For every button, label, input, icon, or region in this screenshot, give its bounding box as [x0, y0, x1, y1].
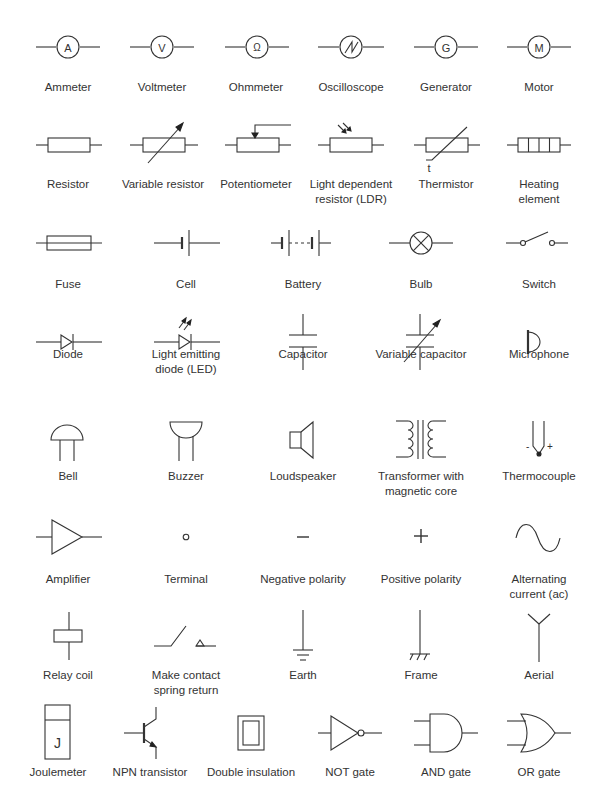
- thermistor-label: Thermistor: [419, 177, 474, 192]
- ammeter-symbol: A: [36, 33, 100, 61]
- amplifier-label: Amplifier: [46, 572, 91, 587]
- ammeter-icon: A: [36, 33, 100, 61]
- thermocouple-label: Thermocouple: [502, 469, 576, 484]
- ohmmeter-icon: Ω: [225, 33, 289, 61]
- svg-text:A: A: [64, 42, 72, 54]
- loudspeaker-symbol: [288, 419, 318, 461]
- voltmeter-icon: V: [130, 33, 194, 61]
- svg-text:-: -: [526, 441, 529, 452]
- earth-icon: [290, 610, 316, 662]
- cell-label: Cell: [176, 277, 196, 292]
- oscilloscope-icon: [318, 33, 384, 61]
- switch-label: Switch: [522, 277, 556, 292]
- double-insulation-symbol: [237, 715, 265, 751]
- frame-label: Frame: [404, 668, 437, 683]
- ohmmeter-label: Ohmmeter: [229, 80, 283, 95]
- bell-symbol: [48, 419, 88, 461]
- aerial-icon: [525, 612, 553, 664]
- npn-transistor-symbol: [124, 707, 164, 759]
- diode-label: Diode: [53, 347, 83, 362]
- fuse-icon: [36, 228, 102, 258]
- ldr-symbol: [318, 120, 388, 170]
- heating-element-symbol: [507, 120, 573, 170]
- bell-label: Bell: [58, 469, 77, 484]
- fuse-symbol: [36, 228, 102, 258]
- sine-wave-icon: [514, 518, 564, 558]
- frame-icon: [405, 610, 435, 662]
- svg-text:V: V: [158, 42, 166, 54]
- ac-symbol: [514, 518, 564, 558]
- and-gate-label: AND gate: [421, 765, 471, 780]
- cell-symbol: [154, 228, 220, 258]
- generator-symbol: G: [414, 33, 478, 61]
- voltmeter-label: Voltmeter: [138, 80, 187, 95]
- ohmmeter-symbol: Ω: [225, 33, 289, 61]
- thermistor-icon: t: [414, 120, 484, 175]
- transformer-symbol: [396, 419, 450, 461]
- make-contact-icon: [154, 622, 220, 650]
- switch-icon: [506, 228, 572, 258]
- resistor-icon: [36, 120, 102, 170]
- microphone-label: Microphone: [509, 347, 569, 362]
- thermocouple-icon: - +: [522, 419, 562, 461]
- transformer-label: Transformer with magnetic core: [378, 469, 464, 499]
- npn-transistor-icon: [124, 707, 164, 759]
- terminal-label: Terminal: [164, 572, 207, 587]
- not-gate-icon: [318, 714, 384, 752]
- motor-symbol: M: [507, 33, 571, 61]
- npn-transistor-label: NPN transistor: [113, 765, 188, 780]
- thermocouple-symbol: - +: [522, 419, 562, 461]
- relay-coil-icon: [52, 612, 86, 660]
- buzzer-icon: [166, 419, 206, 461]
- double-insulation-label: Double insulation: [207, 765, 295, 780]
- relay-coil-symbol: [52, 612, 86, 660]
- generator-label: Generator: [420, 80, 472, 95]
- variable-capacitor-label: Variable capacitor: [375, 347, 466, 362]
- joulemeter-symbol: J: [44, 704, 74, 760]
- loudspeaker-icon: [288, 419, 318, 461]
- resistor-label: Resistor: [47, 177, 89, 192]
- earth-label: Earth: [289, 668, 317, 683]
- relay-coil-label: Relay coil: [43, 668, 93, 683]
- make-contact-label: Make contact spring return: [152, 668, 220, 698]
- svg-text:+: +: [547, 441, 553, 452]
- variable-resistor-icon: [130, 120, 200, 170]
- aerial-label: Aerial: [524, 668, 553, 683]
- transformer-icon: [396, 419, 450, 461]
- positive-polarity-label: Positive polarity: [381, 572, 462, 587]
- fuse-label: Fuse: [55, 277, 81, 292]
- svg-text:J: J: [54, 735, 61, 751]
- negative-polarity-symbol: [295, 531, 311, 543]
- battery-label: Battery: [285, 277, 321, 292]
- make-contact-symbol: [154, 622, 220, 650]
- svg-text:Ω: Ω: [253, 42, 261, 53]
- or-gate-label: OR gate: [518, 765, 561, 780]
- ldr-icon: [318, 120, 388, 170]
- switch-symbol: [506, 228, 572, 258]
- buzzer-label: Buzzer: [168, 469, 204, 484]
- variable-resistor-label: Variable resistor: [122, 177, 204, 192]
- and-gate-symbol: [414, 712, 480, 754]
- heating-element-label: Heating element: [508, 177, 571, 207]
- double-insulation-icon: [237, 715, 265, 751]
- thermistor-symbol: t: [414, 120, 484, 175]
- motor-icon: M: [507, 33, 571, 61]
- buzzer-symbol: [166, 419, 206, 461]
- aerial-symbol: [525, 612, 553, 664]
- frame-symbol: [405, 610, 435, 662]
- resistor-symbol: [36, 120, 102, 170]
- svg-text:G: G: [442, 42, 451, 54]
- ammeter-label: Ammeter: [45, 80, 92, 95]
- negative-polarity-label: Negative polarity: [260, 572, 346, 587]
- svg-text:t: t: [427, 162, 430, 174]
- cell-icon: [154, 228, 220, 258]
- ldr-label: Light dependent resistor (LDR): [310, 177, 393, 207]
- heating-element-icon: [507, 120, 573, 170]
- positive-polarity-symbol: [412, 527, 430, 545]
- voltmeter-symbol: V: [130, 33, 194, 61]
- terminal-icon: [180, 531, 192, 543]
- generator-icon: G: [414, 33, 478, 61]
- led-label: Light emitting diode (LED): [152, 347, 220, 377]
- joulemeter-icon: J: [44, 704, 74, 760]
- capacitor-label: Capacitor: [278, 347, 327, 362]
